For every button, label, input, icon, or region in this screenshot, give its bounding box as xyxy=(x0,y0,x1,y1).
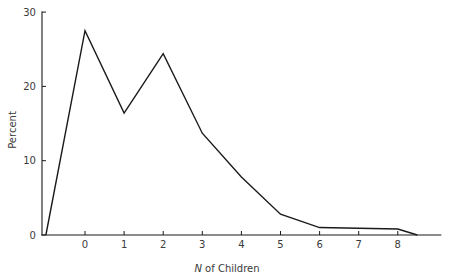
x-tick-label: 0 xyxy=(82,239,88,250)
chart-background xyxy=(0,0,453,280)
x-tick-label: 6 xyxy=(316,239,322,250)
y-axis-title: Percent xyxy=(7,111,18,149)
y-tick-label: 20 xyxy=(23,81,36,92)
x-axis-title-rest: of Children xyxy=(202,263,260,274)
x-axis-title: N of Children xyxy=(194,263,259,274)
x-tick-label: 1 xyxy=(121,239,127,250)
x-tick-label: 8 xyxy=(395,239,401,250)
percent-by-number-of-children-line-chart: 0102030 012345678 N of Children Percent xyxy=(0,0,453,280)
x-tick-label: 5 xyxy=(277,239,283,250)
y-tick-label: 10 xyxy=(23,155,36,166)
x-tick-label: 2 xyxy=(160,239,166,250)
chart-container: 0102030 012345678 N of Children Percent xyxy=(0,0,453,280)
y-tick-label: 0 xyxy=(30,230,36,241)
x-tick-label: 3 xyxy=(199,239,205,250)
y-tick-label: 30 xyxy=(23,7,36,18)
x-tick-label: 7 xyxy=(356,239,362,250)
x-tick-label: 4 xyxy=(238,239,244,250)
